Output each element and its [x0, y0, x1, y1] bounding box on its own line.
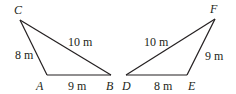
side-label-ca: 8 m — [15, 48, 34, 62]
triangles-diagram: C A B 8 m 9 m 10 m D E F 8 m 9 m 10 m — [0, 0, 236, 94]
triangle-def: D E F 8 m 9 m 10 m — [121, 2, 224, 93]
side-label-df: 10 m — [144, 35, 169, 49]
side-label-de: 8 m — [154, 79, 173, 93]
vertex-label-d: D — [121, 79, 131, 93]
side-label-ab: 9 m — [68, 79, 87, 93]
vertex-label-b: B — [106, 79, 114, 93]
side-label-ef: 9 m — [205, 49, 224, 63]
triangle-abc: C A B 8 m 9 m 10 m — [14, 3, 114, 93]
vertex-label-e: E — [187, 79, 196, 93]
vertex-label-c: C — [14, 3, 23, 17]
side-label-cb: 10 m — [68, 35, 93, 49]
vertex-label-f: F — [209, 2, 218, 16]
vertex-label-a: A — [35, 79, 44, 93]
diagram-svg: C A B 8 m 9 m 10 m D E F 8 m 9 m 10 m — [0, 0, 236, 94]
